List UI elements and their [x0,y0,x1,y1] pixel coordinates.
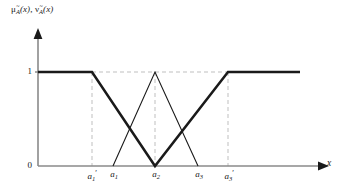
x-tick-label-a1: a1 [110,169,118,180]
x-tick-prime-a1-prime: ′ [95,169,97,178]
mu-membership-curve [113,72,198,166]
nu-non-membership-curve [38,72,300,166]
x-tick-sub-a1: 1 [115,173,118,180]
x-tick-sub-a2: 2 [157,173,160,180]
figure-canvas [0,0,345,194]
y-axis-arrowhead [34,28,43,39]
tilde-accent-mu: ~ [16,3,19,9]
x-tick-label-a3-prime: a3′ [225,169,234,182]
nu-argument: (x) [43,4,53,14]
tilde-accent-nu: ~ [39,3,42,9]
y-tick-label-0: 0 [22,160,32,170]
x-tick-label-a1-prime: a1′ [88,169,97,182]
x-axis-label: x [327,158,331,168]
x-tick-prime-a3-prime: ′ [232,169,234,178]
x-tick-sub-a3: 3 [200,173,203,180]
x-tick-label-a2: a2 [152,169,160,180]
y-axis-caption: μ~A(x), ν~A(x) [11,4,53,15]
mu-argument: (x) [20,4,30,14]
x-tick-label-a3: a3 [195,169,203,180]
intuitionistic-fuzzy-number-figure: μ~A(x), ν~A(x) 1 0 a1′ a1 a2 a3 a3′ x [0,0,345,194]
y-tick-label-1: 1 [22,66,32,76]
